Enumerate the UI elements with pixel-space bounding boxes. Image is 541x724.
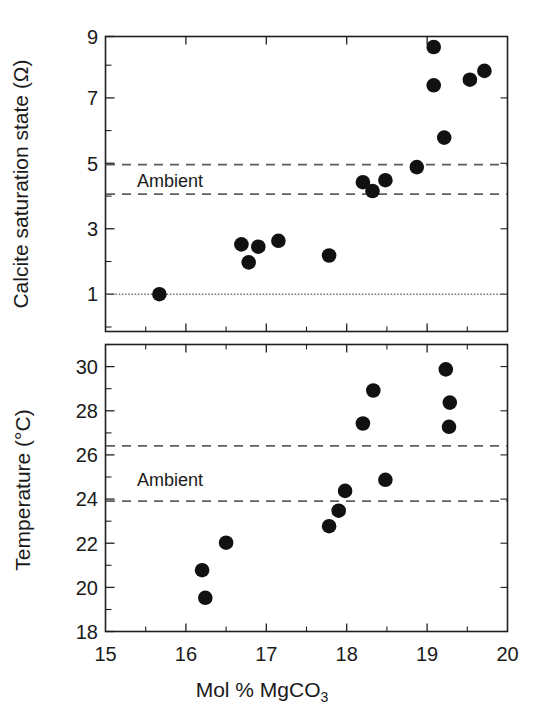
bottom-xtick-15: 15 — [94, 643, 116, 665]
top-ytick-5: 5 — [87, 153, 98, 175]
data-point — [338, 484, 353, 499]
top-panel-x-top-ticks — [186, 37, 427, 45]
figure-container: 9 7 5 3 1 Ambient Calcite saturation sta… — [0, 0, 541, 724]
data-point — [426, 78, 441, 93]
data-point — [366, 383, 381, 398]
top-panel-y-minor-ticks — [106, 65, 112, 327]
data-point — [443, 395, 458, 410]
bottom-panel-x-bottom-ticks — [146, 624, 468, 632]
chart-svg: 9 7 5 3 1 Ambient Calcite saturation sta… — [0, 0, 541, 724]
bottom-panel-y-major-ticks — [106, 367, 115, 632]
top-ambient-annotation: Ambient — [137, 171, 203, 191]
top-ytick-3: 3 — [87, 218, 98, 240]
data-point — [219, 535, 234, 550]
bottom-ytick-20: 20 — [76, 577, 98, 599]
data-point — [378, 173, 393, 188]
data-point — [463, 72, 478, 87]
bottom-xtick-19: 19 — [416, 643, 438, 665]
bottom-ytick-30: 30 — [76, 356, 98, 378]
bottom-xtick-16: 16 — [175, 643, 197, 665]
top-ytick-1: 1 — [87, 283, 98, 305]
data-point — [195, 563, 210, 578]
x-axis-title: Mol % MgCO3 — [196, 678, 329, 705]
x-axis-title-main: Mol % MgCO — [196, 678, 321, 701]
bottom-panel-y-right-ticks — [501, 367, 508, 588]
data-point — [322, 248, 337, 263]
top-ytick-7: 7 — [87, 87, 98, 109]
bottom-xtick-17: 17 — [255, 643, 277, 665]
bottom-ambient-annotation: Ambient — [137, 470, 203, 490]
bottom-panel: 30 28 26 24 22 20 18 15 16 17 18 19 20 A… — [11, 345, 519, 706]
bottom-ytick-24: 24 — [76, 488, 98, 510]
data-point — [442, 420, 457, 435]
bottom-panel-y-axis-title: Temperature (°C) — [11, 409, 34, 570]
bottom-panel-x-top-ticks — [146, 345, 468, 353]
bottom-ytick-26: 26 — [76, 444, 98, 466]
bottom-ytick-28: 28 — [76, 400, 98, 422]
data-point — [251, 239, 266, 254]
bottom-xtick-20: 20 — [496, 643, 518, 665]
data-point — [152, 287, 167, 302]
bottom-xtick-18: 18 — [336, 643, 358, 665]
data-point — [356, 416, 371, 431]
data-point — [198, 591, 213, 606]
x-axis-title-subscript: 3 — [321, 689, 329, 705]
data-point — [322, 519, 337, 534]
data-point — [410, 160, 425, 175]
data-point — [426, 40, 441, 55]
top-panel: 9 7 5 3 1 Ambient Calcite saturation sta… — [9, 26, 508, 332]
data-point — [271, 234, 286, 249]
top-ytick-9: 9 — [87, 26, 98, 48]
top-panel-y-axis-title: Calcite saturation state (Ω) — [9, 59, 32, 308]
bottom-ytick-22: 22 — [76, 533, 98, 555]
data-point — [437, 130, 452, 145]
data-point — [378, 473, 393, 488]
data-point — [234, 237, 249, 252]
data-point — [365, 184, 380, 199]
bottom-ytick-18: 18 — [76, 621, 98, 643]
data-point — [241, 255, 256, 270]
data-point — [331, 503, 346, 518]
top-panel-x-bottom-ticks — [146, 324, 468, 332]
data-point — [439, 362, 454, 377]
data-point — [477, 64, 492, 79]
bottom-panel-datapoints — [195, 362, 457, 605]
top-panel-y-right-ticks — [501, 98, 508, 294]
bottom-panel-y-minor-ticks — [106, 345, 112, 610]
